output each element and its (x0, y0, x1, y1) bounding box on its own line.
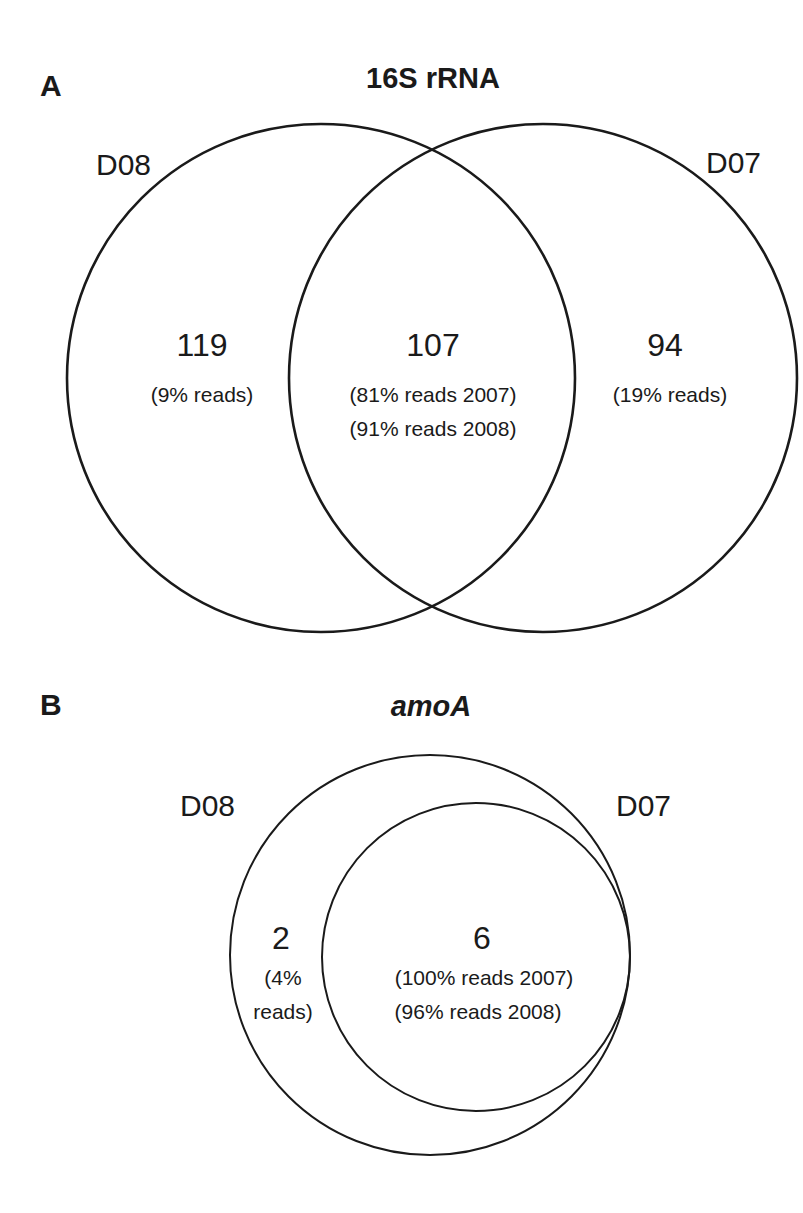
reads-d07-only-a: (19% reads) (613, 383, 727, 406)
panel-a-letter: A (40, 69, 62, 102)
reads-d08-only-b-line2: reads) (253, 1000, 313, 1023)
reads-d08-only-b-line1: (4% (264, 966, 301, 989)
d08-circle-a (67, 124, 575, 632)
count-shared-a: 107 (406, 327, 459, 363)
panel-b: B amoA D08 D07 2 (4% reads) 6 (100% read… (40, 688, 671, 1155)
panel-b-title: amoA (391, 690, 472, 722)
reads-shared-2007-b: (100% reads 2007) (395, 966, 574, 989)
count-d08-only-b: 2 (272, 920, 290, 956)
set-label-d08-b: D08 (180, 789, 235, 822)
reads-d08-only-a: (9% reads) (151, 383, 254, 406)
venn-figure: A 16S rRNA D08 D07 119 (9% reads) 107 (8… (0, 0, 803, 1213)
count-shared-b: 6 (473, 920, 491, 956)
panel-a-title: 16S rRNA (366, 62, 500, 94)
set-label-d07-a: D07 (706, 146, 761, 179)
set-label-d08-a: D08 (96, 148, 151, 181)
panel-b-letter: B (40, 688, 62, 721)
reads-shared-2007-a: (81% reads 2007) (350, 383, 517, 406)
set-label-d07-b: D07 (616, 789, 671, 822)
count-d07-only-a: 94 (647, 327, 683, 363)
count-d08-only-a: 119 (176, 327, 227, 363)
d07-circle-b (322, 803, 630, 1111)
reads-shared-2008-a: (91% reads 2008) (350, 417, 517, 440)
d07-circle-a (289, 124, 797, 632)
d08-circle-b (230, 755, 630, 1155)
panel-a: A 16S rRNA D08 D07 119 (9% reads) 107 (8… (40, 62, 797, 632)
reads-shared-2008-b: (96% reads 2008) (395, 1000, 562, 1023)
